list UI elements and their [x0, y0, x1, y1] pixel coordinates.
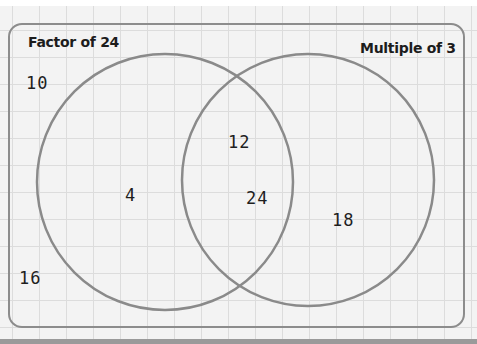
set-circle-multiple-of-3 [182, 54, 434, 306]
value-outside-10: 10 [26, 73, 48, 93]
value-outside-16: 16 [19, 268, 41, 288]
value-intersection-12: 12 [228, 132, 250, 152]
set-label-right: Multiple of 3 [360, 40, 456, 56]
set-circle-factor-of-24 [37, 54, 293, 310]
set-label-left: Factor of 24 [28, 34, 119, 50]
value-right-only-18: 18 [332, 210, 354, 230]
value-left-only-4: 4 [125, 185, 136, 205]
value-intersection-24: 24 [246, 188, 268, 208]
bottom-edge-bar [0, 339, 477, 344]
